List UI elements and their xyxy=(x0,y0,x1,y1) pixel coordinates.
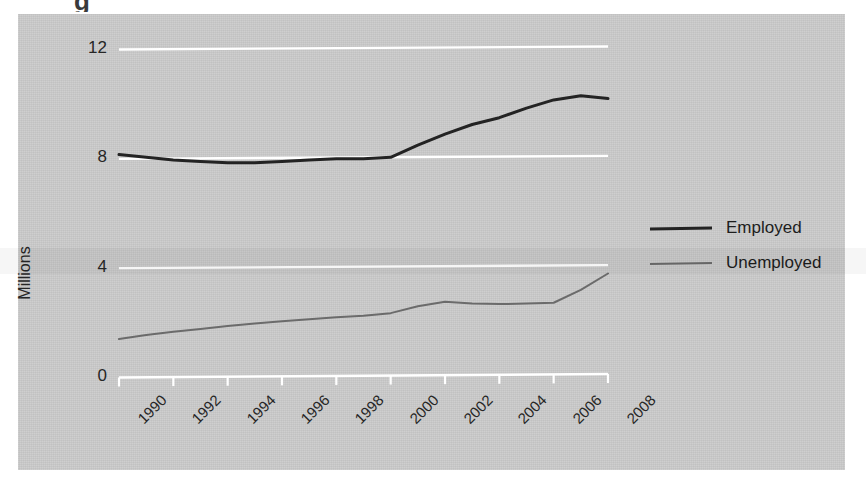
y-tick-label: 0 xyxy=(67,367,107,384)
x-axis xyxy=(119,374,608,387)
data-series xyxy=(119,96,608,339)
legend-item-unemployed[interactable]: Unemployed xyxy=(726,254,821,271)
gridlines xyxy=(119,47,608,378)
legend-item-employed[interactable]: Employed xyxy=(726,219,802,236)
y-axis-title: Millions xyxy=(17,228,33,318)
y-tick-label: 8 xyxy=(67,148,107,165)
y-tick-label: 4 xyxy=(67,258,107,275)
y-tick-label: 12 xyxy=(67,39,107,56)
legend-swatches xyxy=(650,228,712,264)
